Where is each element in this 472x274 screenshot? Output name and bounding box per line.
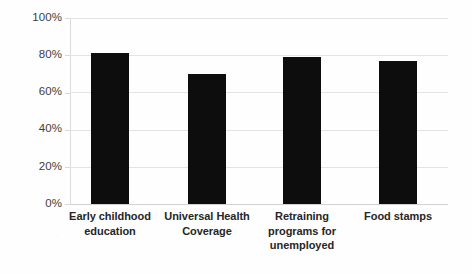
category-label-line: education: [60, 224, 160, 239]
bar-retraining-programs: [283, 57, 321, 204]
bar-early-childhood-education: [91, 53, 129, 204]
category-label-line: unemployed: [252, 238, 352, 253]
plot-area: [70, 18, 448, 204]
y-tick-label-20: 20%: [4, 161, 62, 172]
y-axis-tick-labels: 100% 80% 60% 40% 20% 0%: [0, 0, 62, 274]
x-axis-category-labels: Early childhood education Universal Heal…: [70, 209, 448, 271]
category-label-early-childhood-education: Early childhood education: [60, 209, 160, 238]
category-label-universal-health-coverage: Universal Health Coverage: [157, 209, 257, 238]
y-tick-label-100: 100%: [4, 12, 62, 23]
category-label-food-stamps: Food stamps: [348, 209, 448, 224]
bars-layer: [70, 18, 448, 204]
gridline-0-baseline: [70, 204, 448, 205]
category-label-line: programs for: [252, 224, 352, 239]
y-tick-label-0: 0%: [4, 198, 62, 209]
y-tick-label-80: 80%: [4, 49, 62, 60]
category-label-retraining-programs: Retraining programs for unemployed: [252, 209, 352, 253]
bar-chart: 100% 80% 60% 40% 20% 0% Early chi: [0, 0, 472, 274]
category-label-line: Retraining: [252, 209, 352, 224]
bar-universal-health-coverage: [188, 74, 226, 204]
category-label-line: Early childhood: [60, 209, 160, 224]
category-label-line: Coverage: [157, 224, 257, 239]
category-label-line: Universal Health: [157, 209, 257, 224]
bar-food-stamps: [379, 61, 417, 204]
category-label-line: Food stamps: [348, 209, 448, 224]
y-tick-label-40: 40%: [4, 123, 62, 134]
y-tick-label-60: 60%: [4, 86, 62, 97]
